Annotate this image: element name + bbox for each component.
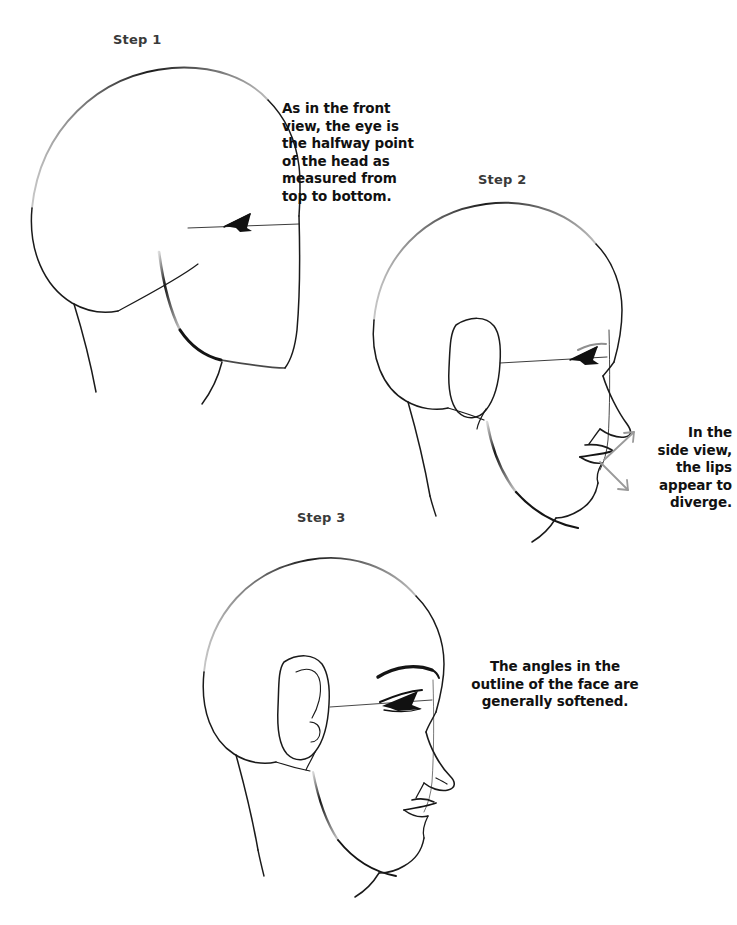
step2-jaw-ramus (487, 422, 516, 492)
step-label-2: Step 2 (478, 172, 526, 187)
step3-ear-lobe (306, 752, 315, 770)
step3-neck-back (236, 755, 258, 850)
step3-face-construction-line (424, 680, 434, 812)
step3-nose-profile (424, 732, 454, 791)
step2-cranium-top (374, 203, 596, 320)
step-1-drawing (31, 68, 300, 404)
step2-ear-outer (449, 318, 501, 417)
step3-brow-bridge (426, 712, 436, 732)
step3-ear-antitragus (310, 722, 320, 742)
step3-forehead (416, 596, 444, 712)
step1-eye-lash (224, 214, 250, 227)
step3-cheek-line (276, 762, 310, 771)
step2-lip-line (580, 451, 613, 457)
step3-eye-upper-lash (380, 690, 422, 702)
step3-neck-base (258, 850, 264, 876)
step3-jaw-ramus (313, 772, 338, 840)
step3-philtrum (416, 783, 424, 798)
step2-brow-bridge (603, 362, 614, 376)
step1-jaw-ramus (159, 252, 180, 330)
step-3-drawing (203, 558, 454, 897)
step2-jaw-bottom (516, 492, 578, 528)
step-2-drawing (373, 203, 630, 542)
step2-lower-lip (580, 457, 602, 463)
step2-cheek-line (448, 408, 484, 420)
step1-chin-line (221, 360, 285, 368)
caption-lips-diverge: In the side view, the lips appear to div… (612, 424, 732, 512)
step3-lip-line (404, 803, 436, 810)
step2-neck-base (430, 496, 436, 516)
step2-forehead (596, 244, 622, 362)
step3-upper-lip (412, 799, 434, 802)
step2-face-construction-line (600, 330, 610, 470)
step1-jaw-bottom (180, 330, 221, 360)
step3-nostril (436, 778, 447, 784)
step3-ear-outer (278, 656, 329, 760)
caption-eye-halfway: As in the front view, the eye is the hal… (282, 100, 442, 206)
step3-eye-lower (384, 709, 420, 711)
step2-brow-shadow (578, 344, 606, 350)
step3-eye-line (330, 700, 432, 707)
step2-neck-front (532, 518, 556, 542)
step2-chin (556, 483, 598, 518)
step1-neck-back (74, 304, 96, 392)
step3-chin-crease (423, 816, 428, 838)
step3-lower-lip (404, 810, 428, 817)
step2-neck-back (408, 402, 430, 496)
step2-chin-crease (597, 463, 602, 483)
step1-eye (224, 213, 252, 232)
step3-cranium-top (204, 558, 416, 672)
step3-eyebrow (378, 667, 432, 677)
step-label-1: Step 1 (113, 32, 161, 47)
caption-angles-softened: The angles in the outline of the face ar… (452, 658, 658, 711)
step2-eye-lash (570, 347, 597, 360)
step1-neck-front (202, 362, 222, 404)
step3-eye (382, 691, 422, 711)
step1-face-front-edge (285, 216, 300, 368)
tutorial-page: Step 1 Step 2 Step 3 As in the front vie… (0, 0, 737, 925)
step3-neck-front (355, 873, 379, 897)
step2-eye-line (500, 357, 607, 363)
step-label-3: Step 3 (297, 510, 345, 525)
step1-cranium-back (31, 208, 118, 312)
step2-philtrum (589, 429, 600, 444)
step3-jaw-bottom (338, 840, 396, 876)
step2-ear-inner (477, 409, 486, 429)
step3-chin (379, 838, 424, 873)
step3-ear-helix (296, 669, 321, 718)
step2-eye (570, 346, 599, 365)
step2-upper-lip (585, 445, 612, 450)
step1-cheek-line (118, 264, 198, 311)
step3-eyebrow-tail (432, 670, 439, 678)
step3-cranium-back (203, 672, 276, 763)
step1-cranium-top (32, 68, 268, 208)
step2-cranium-back (373, 320, 448, 409)
step1-eye-line (188, 224, 299, 228)
